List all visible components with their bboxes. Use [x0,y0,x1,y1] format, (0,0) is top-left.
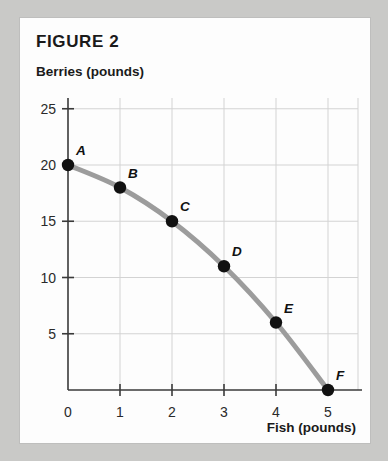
production-possibilities-chart: ABCDEF510152025012345 [20,18,370,443]
y-tick-label-5: 5 [20,326,56,342]
y-tick-label-25: 25 [20,101,56,117]
x-tick-label-3: 3 [220,404,228,420]
chart-plot-area [20,18,370,443]
figure-panel: FIGURE 2 Berries (pounds) Fish (pounds) … [20,18,370,443]
chart-axes [68,98,362,390]
x-tick-label-1: 1 [116,404,124,420]
x-tick-label-4: 4 [272,404,280,420]
gridlines [68,98,358,390]
y-tick-label-10: 10 [20,270,56,286]
point-label-a: A [76,143,86,158]
y-tick-label-15: 15 [20,213,56,229]
axis-tick-marks [62,109,328,396]
point-label-d: D [232,244,242,259]
y-tick-label-20: 20 [20,157,56,173]
point-label-c: C [180,199,190,214]
point-label-f: F [336,368,344,383]
x-tick-label-2: 2 [168,404,176,420]
point-label-b: B [128,166,138,181]
point-label-e: E [284,301,293,316]
x-tick-label-0: 0 [64,404,72,420]
x-tick-label-5: 5 [324,404,332,420]
